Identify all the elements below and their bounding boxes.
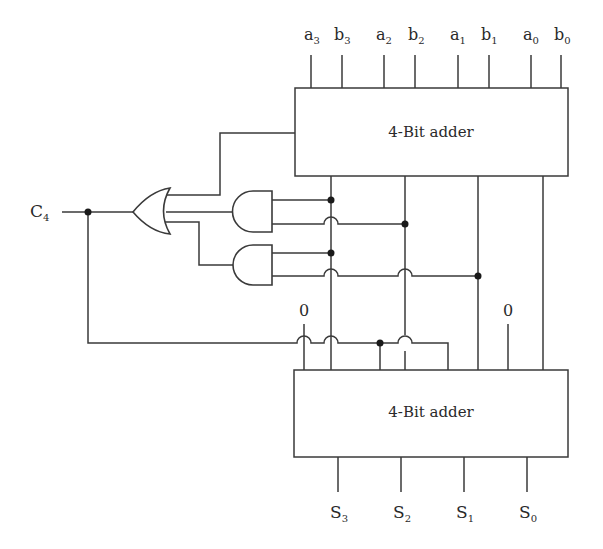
input-label-a3: a3 (304, 25, 320, 46)
c4-label: C4 (30, 201, 49, 223)
and-gate-2 (162, 222, 478, 285)
junction-dot (328, 197, 335, 204)
zero-left: 0 (299, 301, 309, 320)
junction-dot (85, 209, 92, 216)
input-label-a2: a2 (376, 25, 392, 46)
junction-dot (402, 221, 409, 228)
junction-dot (377, 340, 384, 347)
input-label-b0: b0 (554, 25, 571, 46)
output-label-s0: S0 (519, 502, 537, 524)
correction-wire (88, 212, 448, 370)
output-wires (338, 457, 527, 492)
input-labels: a3 b3 a2 b2 a1 b1 a0 b0 (304, 25, 571, 46)
input-label-a0: a0 (523, 25, 539, 46)
input-label-b1: b1 (481, 25, 498, 46)
bcd-adder-diagram: a3 b3 a2 b2 a1 b1 a0 b0 4-Bit adder (0, 0, 603, 549)
intermediate-sum-wires (331, 176, 543, 370)
output-label-s3: S3 (330, 502, 348, 524)
top-carry-wire (162, 133, 295, 195)
input-wires (311, 55, 561, 88)
bottom-4bit-adder: 4-Bit adder (294, 370, 568, 457)
output-label-s1: S1 (456, 502, 474, 524)
top-4bit-adder: 4-Bit adder (295, 88, 568, 176)
junction-dot (475, 273, 482, 280)
zero-right: 0 (503, 301, 513, 320)
carry-out-c4: C4 (30, 201, 133, 223)
output-label-s2: S2 (393, 502, 411, 524)
input-label-b3: b3 (334, 25, 351, 46)
or-gate (133, 188, 170, 234)
junction-dot (328, 250, 335, 257)
and-gate-1 (166, 191, 405, 232)
top-adder-label: 4-Bit adder (388, 123, 474, 141)
output-labels: S3 S2 S1 S0 (330, 502, 537, 524)
input-label-a1: a1 (450, 25, 466, 46)
bottom-adder-label: 4-Bit adder (388, 403, 474, 421)
input-label-b2: b2 (408, 25, 425, 46)
